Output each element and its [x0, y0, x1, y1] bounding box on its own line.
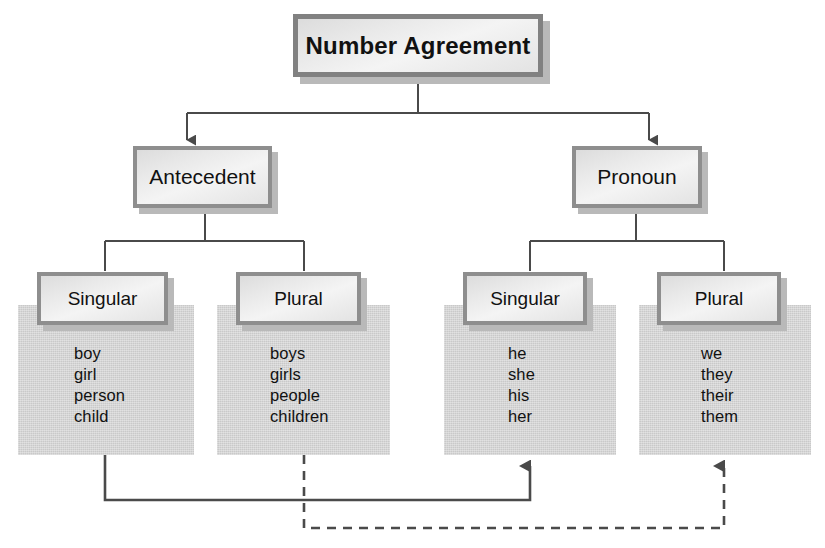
node-antecedent-label: Antecedent: [149, 165, 255, 189]
node-title-label: Number Agreement: [305, 32, 530, 60]
number-agreement-diagram: boy girl person child boys girls people …: [0, 0, 825, 548]
word-item: girls: [270, 364, 390, 385]
node-antecedent-singular[interactable]: Singular: [37, 272, 168, 325]
word-item: he: [508, 343, 616, 364]
node-title[interactable]: Number Agreement: [293, 14, 543, 77]
word-item: their: [701, 385, 811, 406]
node-pronoun-singular-label: Singular: [490, 288, 560, 310]
node-antecedent[interactable]: Antecedent: [133, 146, 272, 208]
word-list-antecedent-singular: boy girl person child: [18, 343, 194, 427]
word-item: people: [270, 385, 390, 406]
word-item: boys: [270, 343, 390, 364]
word-item: boy: [74, 343, 194, 364]
plural-agreement-link: [304, 455, 724, 528]
word-item: we: [701, 343, 811, 364]
node-antecedent-plural[interactable]: Plural: [236, 272, 361, 325]
word-item: children: [270, 406, 390, 427]
word-item: they: [701, 364, 811, 385]
node-pronoun-singular[interactable]: Singular: [463, 272, 587, 325]
word-item: person: [74, 385, 194, 406]
word-list-pronoun-singular: he she his her: [444, 343, 616, 427]
node-pronoun[interactable]: Pronoun: [572, 146, 702, 208]
word-item: her: [508, 406, 616, 427]
word-list-antecedent-plural: boys girls people children: [217, 343, 390, 427]
node-pronoun-plural[interactable]: Plural: [657, 272, 781, 325]
word-item: girl: [74, 364, 194, 385]
node-pronoun-label: Pronoun: [597, 165, 676, 189]
node-pronoun-plural-label: Plural: [695, 288, 744, 310]
node-antecedent-singular-label: Singular: [68, 288, 138, 310]
word-item: she: [508, 364, 616, 385]
node-antecedent-plural-label: Plural: [274, 288, 323, 310]
word-item: child: [74, 406, 194, 427]
word-list-pronoun-plural: we they their them: [639, 343, 811, 427]
singular-agreement-link: [105, 455, 530, 500]
word-item: them: [701, 406, 811, 427]
word-item: his: [508, 385, 616, 406]
